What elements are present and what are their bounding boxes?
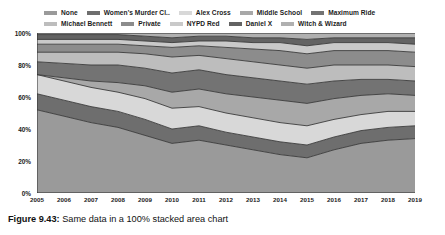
legend-item-label: Alex Cross <box>196 9 231 17</box>
legend-item-label: Private <box>138 20 160 28</box>
legend-swatch-icon <box>311 11 324 15</box>
legend-item-label: Maximum Ride <box>328 9 375 17</box>
y-axis: 0%20%40%60%80%100% <box>0 33 34 193</box>
legend-swatch-icon <box>240 11 253 15</box>
caption-label: Figure 9.43: <box>8 214 60 224</box>
legend-item-nypd-red[interactable]: NYPD Red <box>170 20 220 28</box>
caption-text: Same data in a 100% stacked area chart <box>62 214 228 224</box>
legend-item-label: Witch & Wizard <box>298 20 347 28</box>
x-axis-tick-label: 2017 <box>354 196 368 203</box>
y-axis-tick-label: 100% <box>15 30 31 37</box>
legend-swatch-icon <box>179 11 192 15</box>
legend-row-1: NoneWomen's Murder Cl..Alex CrossMiddle … <box>44 7 440 18</box>
x-axis-tick-label: 2007 <box>84 196 98 203</box>
x-axis-tick-label: 2005 <box>30 196 44 203</box>
legend-swatch-icon <box>44 11 57 15</box>
legend-item-label: Michael Bennett <box>61 20 112 28</box>
x-axis-tick-label: 2009 <box>138 196 152 203</box>
legend-item-private[interactable]: Private <box>121 20 160 28</box>
legend-item-none[interactable]: None <box>44 9 78 17</box>
legend-swatch-icon <box>170 22 183 26</box>
x-axis-tick-label: 2012 <box>219 196 233 203</box>
legend-item-middle-school[interactable]: Middle School <box>240 9 302 17</box>
x-axis-tick-label: 2010 <box>165 196 179 203</box>
legend-swatch-icon <box>281 22 294 26</box>
legend-item-label: Women's Murder Cl.. <box>104 9 170 17</box>
x-axis-tick-label: 2018 <box>381 196 395 203</box>
legend-item-label: NYPD Red <box>187 20 220 28</box>
x-axis-tick-label: 2011 <box>192 196 205 203</box>
chart-legend: NoneWomen's Murder Cl..Alex CrossMiddle … <box>44 7 440 29</box>
x-axis-tick-label: 2013 <box>246 196 260 203</box>
legend-item-label: Daniel X <box>246 20 272 28</box>
legend-item-label: None <box>61 9 78 17</box>
figure-caption: Figure 9.43: Same data in a 100% stacked… <box>8 213 438 226</box>
legend-swatch-icon <box>229 22 242 26</box>
x-axis-tick-label: 2016 <box>327 196 341 203</box>
legend-swatch-icon <box>121 22 134 26</box>
y-axis-tick-label: 80% <box>18 62 31 69</box>
legend-item-daniel-x[interactable]: Daniel X <box>229 20 272 28</box>
y-axis-tick-label: 40% <box>18 126 31 133</box>
legend-item-women-s-murder-cl[interactable]: Women's Murder Cl.. <box>87 9 170 17</box>
legend-swatch-icon <box>87 11 100 15</box>
y-axis-tick-label: 60% <box>18 94 31 101</box>
legend-item-alex-cross[interactable]: Alex Cross <box>179 9 231 17</box>
plot-area: 0%20%40%60%80%100% <box>0 33 445 193</box>
legend-item-witch-wizard[interactable]: Witch & Wizard <box>281 20 347 28</box>
x-axis-tick-label: 2019 <box>408 196 422 203</box>
legend-item-label: Middle School <box>257 9 302 17</box>
x-axis-tick-label: 2006 <box>57 196 71 203</box>
legend-swatch-icon <box>44 22 57 26</box>
x-axis: 2005200620072008200920102011201220132014… <box>37 196 415 208</box>
x-axis-tick-label: 2014 <box>273 196 287 203</box>
legend-item-michael-bennett[interactable]: Michael Bennett <box>44 20 112 28</box>
legend-row-2: Michael BennettPrivateNYPD RedDaniel XWi… <box>44 18 440 29</box>
figure-container: NoneWomen's Murder Cl..Alex CrossMiddle … <box>0 0 445 235</box>
legend-item-maximum-ride[interactable]: Maximum Ride <box>311 9 375 17</box>
x-axis-tick-label: 2008 <box>111 196 125 203</box>
y-axis-tick-label: 20% <box>18 158 31 165</box>
x-axis-tick-label: 2015 <box>300 196 314 203</box>
stacked-area-chart <box>37 33 415 193</box>
